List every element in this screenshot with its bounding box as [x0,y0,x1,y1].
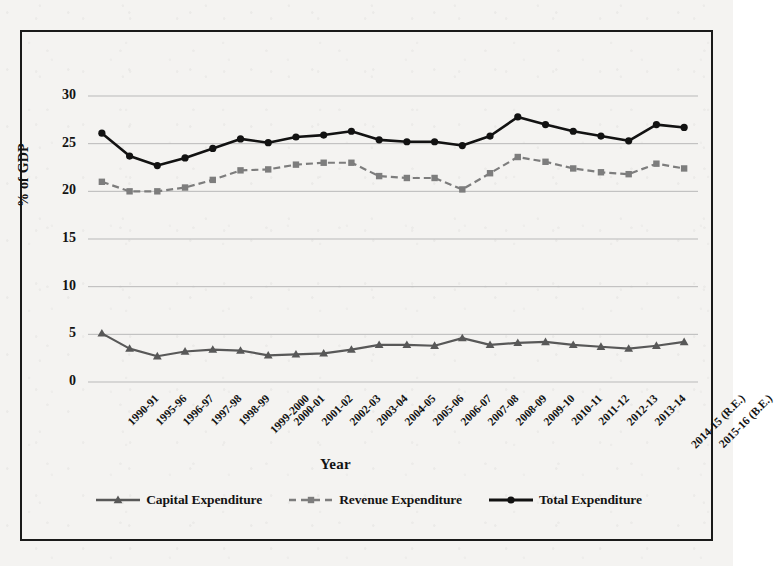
y-axis-tick: 30 [48,87,76,103]
data-point-marker [598,169,604,175]
data-point-marker [487,170,493,176]
data-point-marker [237,167,243,173]
legend-item[interactable]: Capital Expenditure [95,492,262,508]
data-point-marker [542,121,549,128]
series-line [102,157,684,191]
chart-frame: 051015202530 1990-911995-961996-971997-9… [20,30,713,541]
data-point-marker [348,160,354,166]
legend-swatch-circle-icon [488,493,534,507]
y-axis-tick: 15 [48,230,76,246]
data-point-marker [182,184,188,190]
data-point-marker [98,130,105,137]
data-point-marker [570,128,577,135]
series-line [102,117,684,166]
data-point-marker [514,113,521,120]
legend-swatch-square-icon [288,493,334,507]
data-point-marker [681,165,687,171]
data-point-marker [431,175,437,181]
data-point-marker [653,160,659,166]
series-lines-group [102,117,684,356]
legend-label: Revenue Expenditure [339,492,462,508]
series-line [102,333,684,356]
legend-label: Total Expenditure [539,492,642,508]
data-point-marker [404,175,410,181]
data-point-marker [99,179,105,185]
data-point-marker [403,138,410,145]
data-point-marker [459,186,465,192]
data-point-marker [515,154,521,160]
data-point-marker [292,133,299,140]
legend-label: Capital Expenditure [146,492,262,508]
data-point-marker [320,131,327,138]
data-point-marker [431,138,438,145]
data-point-marker [348,128,355,135]
data-point-marker [486,132,493,139]
data-point-marker [320,160,326,166]
legend-swatch-triangle-icon [95,493,141,507]
data-point-marker [210,177,216,183]
gridlines-group [88,96,698,382]
data-point-marker [542,159,548,165]
data-point-marker [681,124,688,131]
legend-item[interactable]: Revenue Expenditure [288,492,462,508]
data-point-marker [458,334,467,342]
data-point-marker [237,135,244,142]
data-point-marker [376,136,383,143]
x-axis-title: Year [320,456,351,473]
data-point-marker [209,145,216,152]
data-point-marker [376,173,382,179]
data-point-marker [265,139,272,146]
data-point-marker [597,132,604,139]
series-markers-group [97,113,688,359]
data-point-marker [570,165,576,171]
data-point-marker [459,142,466,149]
data-point-marker [97,329,106,337]
data-point-marker [293,161,299,167]
chart-legend: Capital ExpenditureRevenue ExpenditureTo… [22,492,715,508]
y-axis-tick: 10 [48,278,76,294]
data-point-marker [265,166,271,172]
y-axis-tick: 25 [48,135,76,151]
legend-item[interactable]: Total Expenditure [488,492,642,508]
line-chart-plot [22,32,711,539]
data-point-marker [653,121,660,128]
data-point-marker [181,154,188,161]
y-axis-tick: 0 [48,373,76,389]
data-point-marker [625,171,631,177]
y-axis-title: % of GDP [16,143,32,207]
data-point-marker [625,137,632,144]
data-point-marker [154,188,160,194]
data-point-marker [126,152,133,159]
y-axis-tick: 5 [48,325,76,341]
data-point-marker [154,162,161,169]
y-axis-tick: 20 [48,182,76,198]
data-point-marker [126,188,132,194]
